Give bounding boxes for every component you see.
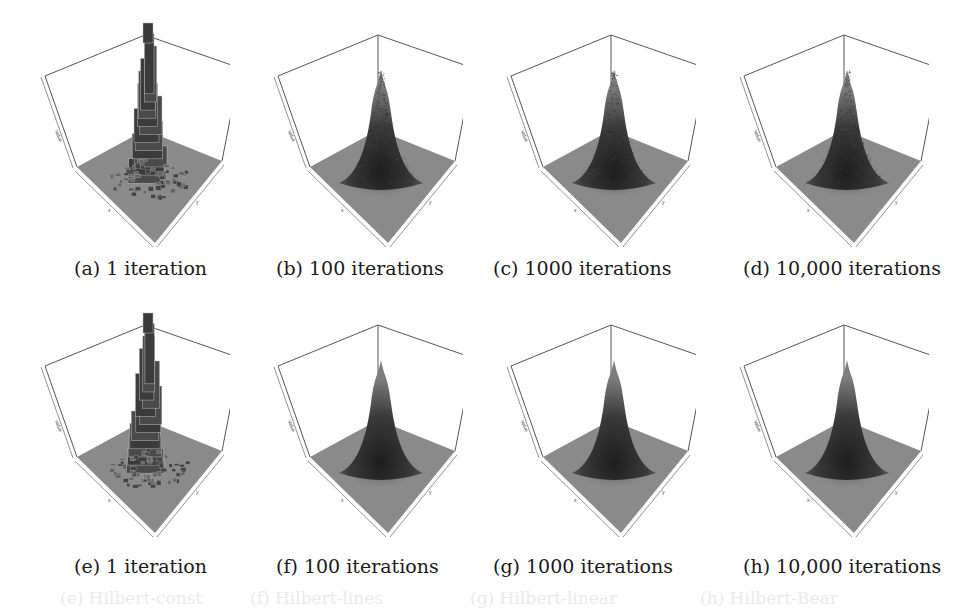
y-axis-label: y (662, 489, 665, 495)
panel-e: valuexy (0, 300, 230, 550)
x-axis-label: x (574, 497, 577, 503)
x-axis-label: x (807, 497, 810, 503)
y-axis-label: y (429, 489, 432, 495)
x-axis-label: x (341, 497, 344, 503)
surface-plot-g: valuexy (466, 300, 696, 550)
x-axis-label: x (341, 207, 344, 213)
z-axis-label: value (287, 129, 297, 142)
x-axis-label: x (108, 497, 111, 503)
panel-c: valuexy (466, 0, 696, 250)
z-axis-label: value (753, 419, 763, 432)
x-axis-label: x (807, 207, 810, 213)
z-axis-label: value (520, 129, 530, 142)
ghost-4: (h) Hilbert-Bear (700, 588, 838, 608)
y-axis-label: y (662, 199, 665, 205)
panel-f: valuexy (233, 300, 463, 550)
bleed-through-text: (e) Hilbert-const (f) Hilbert-lines (g) … (0, 588, 958, 607)
surface-plot-h: valuexy (699, 300, 929, 550)
z-axis-label: value (520, 419, 530, 432)
caption-b: (b) 100 iterations (276, 257, 444, 279)
y-axis-label: y (895, 199, 898, 205)
caption-c: (c) 1000 iterations (493, 257, 671, 279)
surface-plot-b: valuexy (233, 0, 463, 250)
z-axis-label: value (54, 419, 64, 432)
x-axis-label: x (108, 207, 111, 213)
y-axis-label: y (196, 489, 199, 495)
surface-plot-d: valuexy (699, 0, 929, 250)
z-axis-label: value (753, 129, 763, 142)
panel-d: valuexy (699, 0, 929, 250)
ghost-3: (g) Hilbert-linear (470, 588, 617, 608)
caption-a: (a) 1 iteration (74, 257, 207, 279)
y-axis-label: y (429, 199, 432, 205)
caption-g: (g) 1000 iterations (493, 555, 673, 577)
z-axis-label: value (287, 419, 297, 432)
surface-plot-c: valuexy (466, 0, 696, 250)
x-axis-label: x (574, 207, 577, 213)
panel-a: valuexy (0, 0, 230, 250)
surface-plot-f: valuexy (233, 300, 463, 550)
surface-plot-a: valuexy (0, 0, 230, 250)
panel-h: valuexy (699, 300, 929, 550)
y-axis-label: y (895, 489, 898, 495)
caption-e: (e) 1 iteration (74, 555, 207, 577)
z-axis-label: value (54, 129, 64, 142)
caption-f: (f) 100 iterations (276, 555, 439, 577)
y-axis-label: y (196, 199, 199, 205)
caption-d: (d) 10,000 iterations (743, 257, 941, 279)
panel-b: valuexy (233, 0, 463, 250)
surface-plot-e: valuexy (0, 300, 230, 550)
panel-g: valuexy (466, 300, 696, 550)
ghost-1: (e) Hilbert-const (60, 588, 202, 608)
ghost-2: (f) Hilbert-lines (250, 588, 383, 608)
caption-h: (h) 10,000 iterations (743, 555, 941, 577)
